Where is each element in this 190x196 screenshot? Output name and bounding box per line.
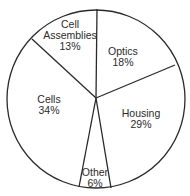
pie-chart: Cell Assemblies 13% Optics 18% Housing 2… [0,0,190,196]
slice-label-cells: Cells 34% [37,93,60,116]
slice-percent: 34% [38,104,59,116]
slice-percent: 29% [130,118,151,130]
slice-percent: 6% [87,177,102,189]
slice-percent: 13% [59,40,80,52]
slice-label-optics: Optics 18% [108,45,138,68]
slice-percent: 18% [112,56,133,68]
